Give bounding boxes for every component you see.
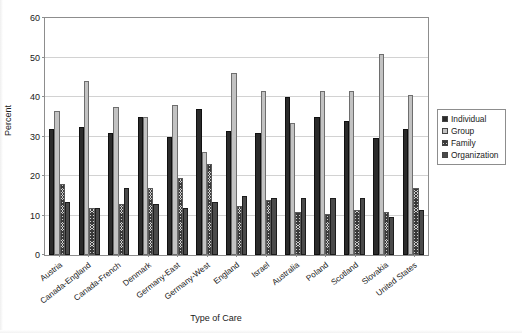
- x-axis-tick-mark: [266, 254, 267, 257]
- bar-organization: [153, 204, 158, 255]
- y-axis-tick-label: 0: [35, 250, 40, 260]
- x-axis-tick-label-cell: United States: [399, 258, 429, 310]
- legend-item-individual: Individual: [442, 114, 499, 124]
- bar-group: [192, 18, 221, 255]
- y-axis-tick-label: 40: [30, 92, 40, 102]
- legend-swatch-organization-icon: [442, 152, 448, 158]
- bar-group: [104, 18, 133, 255]
- x-axis-tick-mark: [296, 254, 297, 257]
- x-axis-title-text: Type of Care: [190, 313, 242, 323]
- y-axis-tick-label: 20: [30, 171, 40, 181]
- bar-group: [74, 18, 103, 255]
- bar-group: [222, 18, 251, 255]
- legend-swatch-individual-icon: [442, 116, 448, 122]
- y-axis-tick-label: 10: [30, 211, 40, 221]
- legend-item-organization: Organization: [442, 150, 499, 160]
- bar-group: [310, 18, 339, 255]
- legend-label: Group: [451, 126, 474, 136]
- bar-organization: [183, 208, 188, 255]
- bar-organization: [301, 198, 306, 255]
- bar-organization: [65, 202, 70, 255]
- x-axis-tick-mark: [177, 254, 178, 257]
- x-axis-title: Type of Care: [0, 313, 522, 323]
- bar-chart: Percent 0102030405060 AustriaCanada-Engl…: [0, 0, 522, 333]
- bar-organization: [330, 198, 335, 255]
- legend-item-group: Group: [442, 126, 499, 136]
- x-axis-tick-label: Israel: [250, 260, 271, 279]
- bar-group: [251, 18, 280, 255]
- bar-organization: [360, 198, 365, 255]
- bar-organization: [271, 198, 276, 255]
- bar-organization: [95, 208, 100, 255]
- bar-group: [45, 18, 74, 255]
- bar-organization: [124, 188, 129, 255]
- y-axis-tick-label: 50: [30, 53, 40, 63]
- bar-organization: [419, 210, 424, 255]
- x-axis-tick-mark: [207, 254, 208, 257]
- plot-area: 0102030405060: [44, 17, 429, 256]
- legend-label: Individual: [451, 114, 486, 124]
- bar-group: [163, 18, 192, 255]
- x-axis-tick-mark: [236, 254, 237, 257]
- x-axis-tick-label-cell: England: [222, 258, 252, 310]
- x-axis-tick-mark: [414, 254, 415, 257]
- bar-group: [369, 18, 398, 255]
- y-axis-tick-label: 30: [30, 132, 40, 142]
- bar-groups: [45, 18, 428, 255]
- x-axis-tick-mark: [355, 254, 356, 257]
- chart-legend: IndividualGroupFamilyOrganization: [437, 109, 506, 165]
- bar-group: [340, 18, 369, 255]
- y-axis-tick-label: 60: [30, 13, 40, 23]
- bar-group: [281, 18, 310, 255]
- legend-item-family: Family: [442, 138, 499, 148]
- legend-label: Family: [451, 138, 476, 148]
- x-axis-tick-mark: [118, 254, 119, 257]
- x-axis-tick-mark: [59, 254, 60, 257]
- x-axis-tick-mark: [88, 254, 89, 257]
- x-axis-tick-mark: [148, 254, 149, 257]
- x-axis-tick-labels: AustriaCanada-EnglandCanada-FrenchDenmar…: [44, 258, 429, 310]
- bar-organization: [242, 196, 247, 255]
- bar-group: [133, 18, 162, 255]
- bar-organization: [389, 217, 394, 255]
- x-axis-tick-mark: [385, 254, 386, 257]
- x-axis-tick-label-cell: Australia: [281, 258, 311, 310]
- bar-group: [399, 18, 428, 255]
- legend-swatch-group-icon: [442, 128, 448, 134]
- y-axis-title: Percent: [3, 105, 13, 136]
- x-axis-tick-label: Austria: [38, 260, 64, 283]
- legend-swatch-family-icon: [442, 140, 448, 146]
- bar-organization: [212, 202, 217, 255]
- legend-label: Organization: [451, 150, 499, 160]
- x-axis-tick-mark: [325, 254, 326, 257]
